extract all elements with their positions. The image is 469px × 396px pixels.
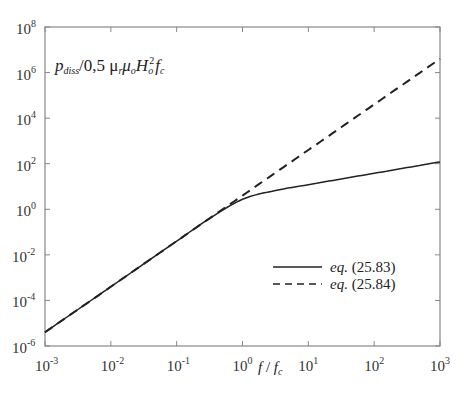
series-eq-25-83-line: [45, 162, 440, 332]
y-tick-label: 104: [16, 109, 36, 128]
y-tick-label: 102: [16, 155, 36, 174]
legend-label-eq-25-84: eq. (25.84): [330, 276, 395, 293]
y-tick-label: 100: [16, 200, 36, 219]
chart: 10-310-210-11001011021031081061041021001…: [0, 0, 469, 396]
x-tick-label: 10-2: [101, 355, 124, 374]
x-tick-label: 101: [298, 355, 318, 374]
x-tick-label: 102: [364, 355, 384, 374]
legend: eq. (25.83) eq. (25.84): [273, 259, 395, 293]
y-tick-label: 10-4: [12, 291, 35, 310]
y-axis-label: pdiss/0,5 μrμoH2ofc: [54, 55, 165, 76]
y-tick-label: 108: [16, 18, 36, 37]
x-axis-label: f / fc: [258, 359, 283, 377]
y-tick-label: 10-2: [12, 246, 35, 265]
y-tick-label: 10-6: [12, 337, 35, 356]
x-tick-label: 10-1: [167, 355, 190, 374]
x-tick-label: 103: [430, 355, 450, 374]
x-tick-label: 10-3: [35, 355, 58, 374]
x-tick-label: 100: [233, 355, 253, 374]
legend-label-eq-25-83: eq. (25.83): [330, 259, 395, 276]
y-tick-label: 106: [16, 64, 36, 83]
